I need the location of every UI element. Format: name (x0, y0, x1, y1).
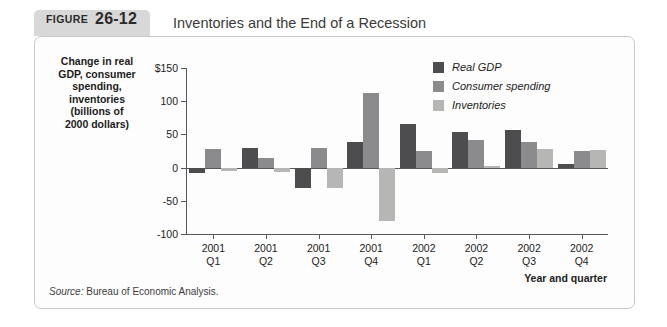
y-tick-label: $150 (155, 62, 178, 74)
x-label-quarter: Q1 (183, 255, 243, 268)
x-label-year: 2002 (552, 242, 612, 255)
chart-panel: Change in real GDP, consumer spending, i… (34, 36, 635, 309)
x-tick-label: 2002Q4 (552, 242, 612, 268)
bar (363, 93, 379, 168)
bar (416, 151, 432, 168)
x-label-quarter: Q3 (499, 255, 559, 268)
bar (295, 168, 311, 189)
bar (484, 166, 500, 167)
x-label-year: 2001 (341, 242, 401, 255)
bar (274, 168, 290, 172)
x-tick-label: 2002Q2 (446, 242, 506, 268)
y-tick (181, 101, 187, 102)
figure-tag-word: FIGURE (46, 13, 88, 25)
x-label-year: 2001 (183, 242, 243, 255)
figure-header: FIGURE 26-12 Inventories and the End of … (34, 10, 426, 36)
bar (347, 142, 363, 167)
bar (537, 149, 553, 168)
x-axis-line (186, 234, 608, 235)
x-label-quarter: Q3 (289, 255, 349, 268)
y-tick-label: 100 (160, 95, 178, 107)
source-note: Source: Bureau of Economic Analysis. (49, 286, 219, 297)
x-label-quarter: Q2 (236, 255, 296, 268)
x-axis-title: Year and quarter (524, 272, 607, 284)
x-label-year: 2002 (446, 242, 506, 255)
bar-group (295, 68, 343, 234)
bar (590, 150, 606, 167)
y-tick (181, 201, 187, 202)
bar (558, 164, 574, 167)
bar (242, 148, 258, 167)
x-label-quarter: Q1 (394, 255, 454, 268)
y-axis-caption: Change in real GDP, consumer spending, i… (41, 55, 153, 131)
x-tick-label: 2002Q3 (499, 242, 559, 268)
bar-group (347, 68, 395, 234)
bar (574, 151, 590, 168)
x-label-quarter: Q4 (552, 255, 612, 268)
x-tick-label: 2001Q3 (289, 242, 349, 268)
bar-group (558, 68, 606, 234)
x-tick (266, 234, 267, 239)
bar (400, 124, 416, 167)
bar (521, 142, 537, 167)
bar (311, 148, 327, 168)
bar (258, 158, 274, 168)
x-tick (319, 234, 320, 239)
bar (221, 168, 237, 171)
plot-area: $150100500-50-100 (187, 68, 608, 234)
x-tick-label: 2001Q2 (236, 242, 296, 268)
figure-container: FIGURE 26-12 Inventories and the End of … (0, 0, 667, 327)
x-label-year: 2002 (394, 242, 454, 255)
source-text: Bureau of Economic Analysis. (83, 286, 218, 297)
bar (379, 168, 395, 221)
bar (189, 168, 205, 173)
bar-group (189, 68, 237, 234)
y-tick-label: 0 (172, 162, 178, 174)
bar-group (242, 68, 290, 234)
x-tick-label: 2001Q4 (341, 242, 401, 268)
figure-title: Inventories and the End of a Recession (173, 15, 426, 31)
y-tick-label: -50 (163, 195, 178, 207)
x-tick-label: 2001Q1 (183, 242, 243, 268)
bar-group (505, 68, 553, 234)
x-tick (529, 234, 530, 239)
x-label-quarter: Q4 (341, 255, 401, 268)
bar (505, 130, 521, 168)
figure-tag-number: 26-12 (95, 10, 137, 28)
bar-group (452, 68, 500, 234)
x-tick (476, 234, 477, 239)
x-tick (424, 234, 425, 239)
x-label-year: 2001 (289, 242, 349, 255)
bar (468, 140, 484, 168)
source-label: Source: (49, 286, 83, 297)
x-tick (213, 234, 214, 239)
x-label-year: 2002 (499, 242, 559, 255)
bar (205, 149, 221, 168)
x-label-quarter: Q2 (446, 255, 506, 268)
figure-number-tag: FIGURE 26-12 (34, 10, 150, 36)
x-label-year: 2001 (236, 242, 296, 255)
bar (432, 168, 448, 173)
y-tick (181, 68, 187, 69)
bar (327, 168, 343, 188)
y-tick-label: -100 (157, 228, 178, 240)
x-tick-label: 2002Q1 (394, 242, 454, 268)
y-tick (181, 134, 187, 135)
bar (452, 132, 468, 167)
y-axis-line (186, 68, 187, 234)
x-tick (371, 234, 372, 239)
bar-group (400, 68, 448, 234)
y-tick-label: 50 (166, 128, 178, 140)
x-tick (582, 234, 583, 239)
y-tick (181, 168, 187, 169)
